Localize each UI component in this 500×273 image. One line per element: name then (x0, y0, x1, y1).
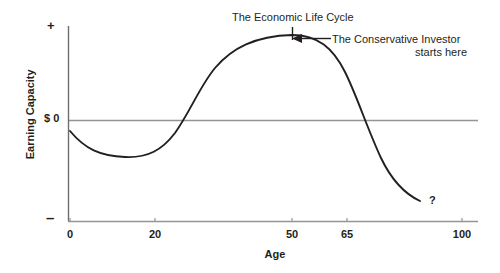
economic-life-cycle-chart: + $ 0 – Earning Capacity 0 20 50 65 100 … (0, 0, 500, 273)
x-axis-title: Age (245, 248, 305, 261)
conservative-investor-annotation-line2: starts here (332, 46, 467, 59)
curve-end-question-mark: ? (429, 194, 436, 207)
chart-title: The Economic Life Cycle (232, 11, 354, 24)
conservative-investor-annotation-line1: The Conservative Investor (332, 33, 460, 46)
x-axis-ticks (70, 218, 462, 221)
x-tick-label-50: 50 (272, 228, 312, 241)
x-tick-label-0: 0 (50, 228, 90, 241)
y-axis-negative-marker: – (46, 209, 54, 226)
x-tick-label-100: 100 (442, 228, 482, 241)
earning-capacity-curve (70, 35, 420, 201)
y-axis-title: Earning Capacity (24, 59, 37, 169)
x-tick-label-20: 20 (135, 228, 175, 241)
y-axis-zero-label: $ 0 (44, 112, 59, 125)
x-tick-label-65: 65 (327, 228, 367, 241)
y-axis-positive-marker: + (47, 19, 55, 34)
